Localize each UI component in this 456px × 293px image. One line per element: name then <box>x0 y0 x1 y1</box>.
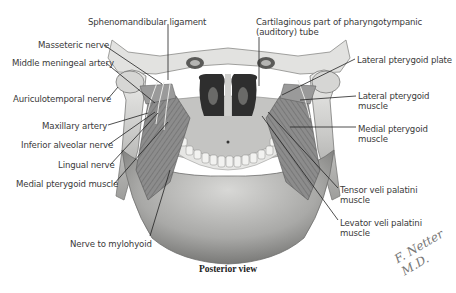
label-text-line2: (auditory) tube <box>256 27 422 37</box>
label-text: Auriculotemporal nerve <box>13 94 111 104</box>
label-text: Tensor veli palatini <box>340 185 417 195</box>
label-nerve-to-mylohyoid: Nerve to mylohyoid <box>70 239 152 249</box>
label-tensor-veli-palatini-muscle: Tensor veli palatinimuscle <box>340 185 417 205</box>
label-text: Lateral pterygoid <box>358 91 429 101</box>
label-text: Maxillary artery <box>42 121 107 131</box>
choanae <box>199 74 257 116</box>
label-lateral-pterygoid-muscle: Lateral pterygoidmuscle <box>358 91 429 111</box>
label-inferior-alveolar-nerve: Inferior alveolar nerve <box>21 140 113 150</box>
label-text: Levator veli palatini <box>340 218 422 228</box>
label-text-line2: muscle <box>358 101 429 111</box>
label-text-line2: muscle <box>340 228 422 238</box>
label-text-line2: muscle <box>340 195 417 205</box>
label-sphenomandibular-ligament: Sphenomandibular ligament <box>88 17 206 27</box>
label-levator-veli-palatini-muscle: Levator veli palatinimuscle <box>340 218 422 238</box>
label-text-line2: muscle <box>358 134 428 144</box>
label-text: Medial pterygoid <box>358 124 428 134</box>
label-text: Lateral pterygoid plate <box>357 55 452 65</box>
label-text: Inferior alveolar nerve <box>21 140 113 150</box>
label-auriculotemporal-nerve: Auriculotemporal nerve <box>13 94 111 104</box>
label-middle-meningeal-artery: Middle meningeal artery <box>12 58 114 68</box>
label-medial-pterygoid-muscle: Medial pterygoidmuscle <box>358 124 428 144</box>
anatomy-figure: Sphenomandibular ligamentMasseteric nerv… <box>0 0 456 293</box>
label-medial-pterygoid-muscle: Medial pterygoid muscle <box>16 179 118 189</box>
label-cartilaginous-part-of-pharyngotympanic-auditory-tube: Cartilaginous part of pharyngotympanic(a… <box>256 17 422 37</box>
label-text: Middle meningeal artery <box>12 58 114 68</box>
label-text: Nerve to mylohyoid <box>70 239 152 249</box>
label-text: Lingual nerve <box>58 160 115 170</box>
label-text: Cartilaginous part of pharyngotympanic <box>256 17 422 27</box>
label-masseteric-nerve: Masseteric nerve <box>38 40 109 50</box>
label-text: Sphenomandibular ligament <box>88 17 206 27</box>
label-text: Medial pterygoid muscle <box>16 179 118 189</box>
figure-caption: Posterior view <box>0 264 456 274</box>
label-text: Masseteric nerve <box>38 40 109 50</box>
label-lateral-pterygoid-plate: Lateral pterygoid plate <box>357 55 452 65</box>
label-lingual-nerve: Lingual nerve <box>58 160 115 170</box>
cranial-base <box>108 40 350 74</box>
label-maxillary-artery: Maxillary artery <box>42 121 107 131</box>
